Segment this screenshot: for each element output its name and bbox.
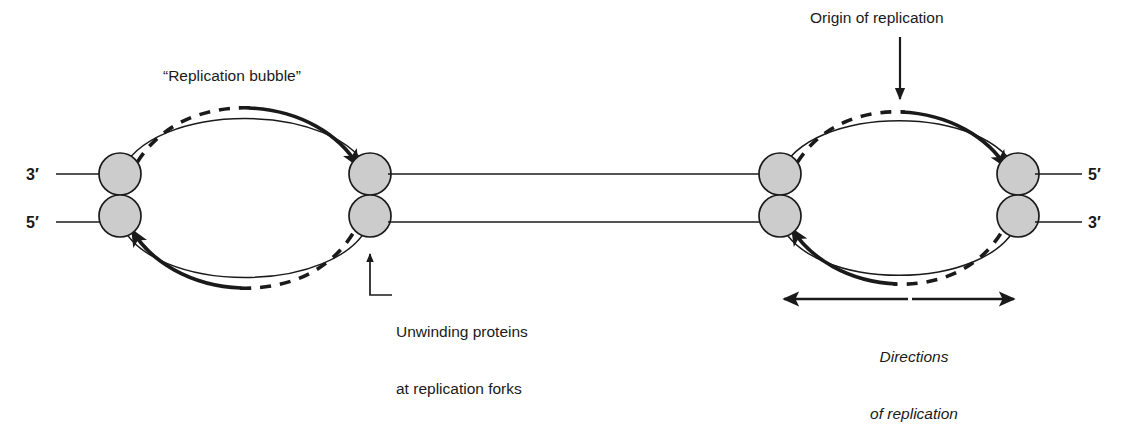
unwinding-protein-left-bubble-left-fork-top [99, 153, 141, 195]
right-bubble-new-bottom-strand-dashed [893, 216, 1010, 284]
unwinding-protein-left-bubble-right-fork-top [349, 153, 391, 195]
left-bubble-outer-bottom-strand [120, 222, 370, 278]
unwinding-protein-right-bubble-left-fork-bottom [759, 195, 801, 237]
right-bubble-outer-bottom-strand [780, 222, 1018, 275]
right-replication-bubble [759, 112, 1039, 284]
right-bubble-new-bottom-strand-solid [792, 229, 897, 284]
left-bubble-new-top-strand-solid [249, 108, 358, 166]
right-flank-dna [1035, 174, 1082, 222]
origin-of-replication-label: Origin of replication [810, 9, 944, 28]
right-bubble-outer-top-strand [780, 121, 1018, 174]
unwinding-proteins-label-line2: at replication forks [396, 380, 528, 399]
middle-dna-duplex [388, 174, 762, 222]
directions-label-line1: Directions [824, 348, 1004, 367]
unwinding-protein-left-bubble-left-fork-bottom [99, 195, 141, 237]
unwinding-proteins-leader-line [370, 254, 392, 295]
left-bubble-new-bottom-strand-solid [132, 230, 241, 288]
directions-of-replication-label: Directions of replication [824, 310, 1004, 426]
replication-bubble-label: “Replication bubble” [163, 67, 301, 86]
unwinding-proteins-label: Unwinding proteins at replication forks [396, 285, 528, 426]
left-flank-dna [56, 174, 103, 222]
directions-label-line2: of replication [824, 405, 1004, 424]
unwinding-protein-right-bubble-right-fork-top [997, 153, 1039, 195]
unwinding-proteins-label-line1: Unwinding proteins [396, 323, 528, 342]
unwinding-protein-left-bubble-right-fork-bottom [349, 195, 391, 237]
unwinding-protein-right-bubble-right-fork-bottom [997, 195, 1039, 237]
unwinding-protein-right-bubble-left-fork-top [759, 153, 801, 195]
strand-end-label-left-top: 3′ [26, 165, 39, 185]
strand-end-label-right-top: 5′ [1088, 165, 1101, 185]
left-replication-bubble [99, 108, 391, 288]
strand-end-label-right-bottom: 3′ [1088, 213, 1101, 233]
right-bubble-new-top-strand-solid [901, 112, 1006, 167]
left-bubble-outer-top-strand [120, 119, 370, 175]
strand-end-label-left-bottom: 5′ [26, 213, 39, 233]
right-bubble-new-top-strand-dashed [788, 112, 905, 180]
